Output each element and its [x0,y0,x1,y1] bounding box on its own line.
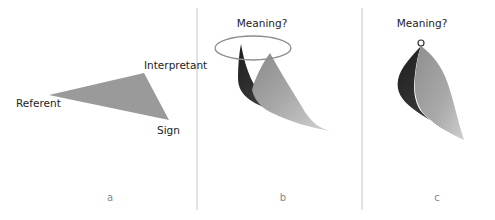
meaning-caption-c: Meaning? [397,18,447,29]
semiotic-triangle-figure: Interpretant Referent Sign Meaning? Mean… [0,0,495,220]
twisted-surface-c [398,46,464,140]
figure-graphics [0,0,495,220]
panel-letter-c: c [434,193,440,203]
vertex-label-sign: Sign [157,125,180,136]
twisted-surface-b [238,44,331,131]
meaning-ellipse [215,36,291,60]
semiotic-triangle [49,73,169,120]
vertex-label-referent: Referent [16,98,61,109]
vertex-label-interpretant: Interpretant [144,60,207,71]
panel-letter-a: a [107,193,113,203]
meaning-caption-b: Meaning? [237,18,287,29]
panel-letter-b: b [280,193,286,203]
meaning-convergence-point [418,40,424,46]
